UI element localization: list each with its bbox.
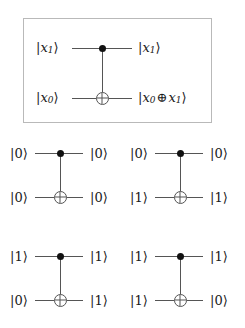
figure-canvas: |x1⟩ |x1⟩ |x0⟩ |x0⊕x1⟩ |0⟩ |0⟩ |0⟩ |0⟩ |… <box>0 0 245 328</box>
cnot-example-11-circuit: |1⟩ |1⟩ |1⟩ |0⟩ <box>0 0 245 328</box>
cnot-example-11-target-output: |0⟩ <box>210 294 228 307</box>
cnot-example-11-control-output: |1⟩ <box>210 250 228 263</box>
xor-target-icon <box>174 294 187 307</box>
cnot-example-11-target-input: |1⟩ <box>130 294 148 307</box>
control-dot-icon <box>177 253 184 260</box>
cnot-example-11-control-input: |1⟩ <box>130 250 148 263</box>
